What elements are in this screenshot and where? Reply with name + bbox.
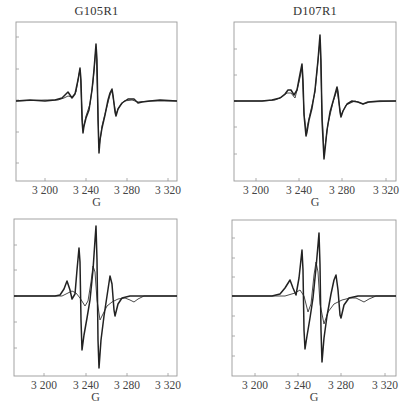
panel-title: D107R1 bbox=[293, 4, 337, 18]
x-tick-label: 3 320 bbox=[372, 379, 398, 391]
x-tick-label: 3 200 bbox=[31, 379, 57, 391]
x-tick-label: 3 200 bbox=[243, 184, 269, 196]
x-tick-label: 3 280 bbox=[329, 184, 355, 196]
panel-bottom-right: 3 2003 2403 2803 320G bbox=[232, 220, 398, 404]
panel-title: G105R1 bbox=[74, 4, 118, 18]
panel-top-right: D107R13 2003 2403 2803 320G bbox=[234, 4, 399, 209]
panel-top-left: G105R13 2003 2403 2803 320G bbox=[16, 4, 181, 209]
x-tick-label: 3 280 bbox=[114, 379, 140, 391]
x-tick-label: 3 280 bbox=[328, 379, 354, 391]
panel-bottom-left: 3 2003 2403 2803 320G bbox=[14, 219, 181, 404]
x-tick-label: 3 320 bbox=[155, 379, 181, 391]
x-tick-label: 3 280 bbox=[114, 184, 140, 196]
x-axis-label: G bbox=[92, 195, 101, 209]
epr-spectra-figure: G105R13 2003 2403 2803 320GD107R13 2003 … bbox=[0, 0, 404, 407]
x-tick-label: 3 200 bbox=[32, 184, 58, 196]
x-axis-label: G bbox=[91, 390, 100, 404]
spectrum-trace-mobile-component bbox=[14, 226, 177, 368]
x-tick-label: 3 200 bbox=[242, 379, 268, 391]
spectrum-trace-experimental bbox=[234, 35, 396, 159]
spectrum-trace-fit bbox=[234, 40, 396, 154]
x-tick-label: 3 240 bbox=[286, 184, 312, 196]
spectrum-trace-immobile-component bbox=[14, 266, 177, 320]
x-axis-label: G bbox=[310, 390, 319, 404]
spectrum-trace-experimental bbox=[16, 44, 177, 153]
x-axis-label: G bbox=[311, 195, 320, 209]
x-tick-label: 3 320 bbox=[155, 184, 181, 196]
x-tick-label: 3 240 bbox=[285, 379, 311, 391]
x-tick-label: 3 320 bbox=[373, 184, 399, 196]
